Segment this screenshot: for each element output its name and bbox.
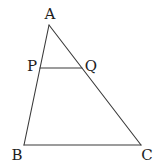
point-label-q: Q [85,57,97,75]
segment-ab [24,25,49,145]
vertex-label-b: B [11,146,22,164]
vertex-label-a: A [44,5,56,23]
vertex-label-c: C [141,146,152,164]
triangle-diagram: A P Q B C [0,0,160,166]
segment-ac [49,25,141,145]
point-label-p: P [27,57,37,75]
